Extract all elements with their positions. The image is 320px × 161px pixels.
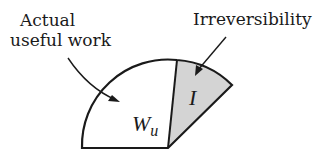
exergy-sector-diagram: Wu I Actual useful work Irreversibility [0, 0, 320, 161]
useful-work-arrowhead-icon [108, 95, 120, 102]
wu-symbol: Wu [132, 111, 158, 139]
actual-label-line2: useful work [10, 30, 111, 50]
irreversibility-label: Irreversibility [193, 9, 312, 29]
actual-label-line1: Actual [20, 10, 75, 30]
irreversibility-arrow [198, 37, 226, 70]
useful-work-arrow [68, 58, 116, 100]
irreversibility-wedge [168, 60, 232, 148]
